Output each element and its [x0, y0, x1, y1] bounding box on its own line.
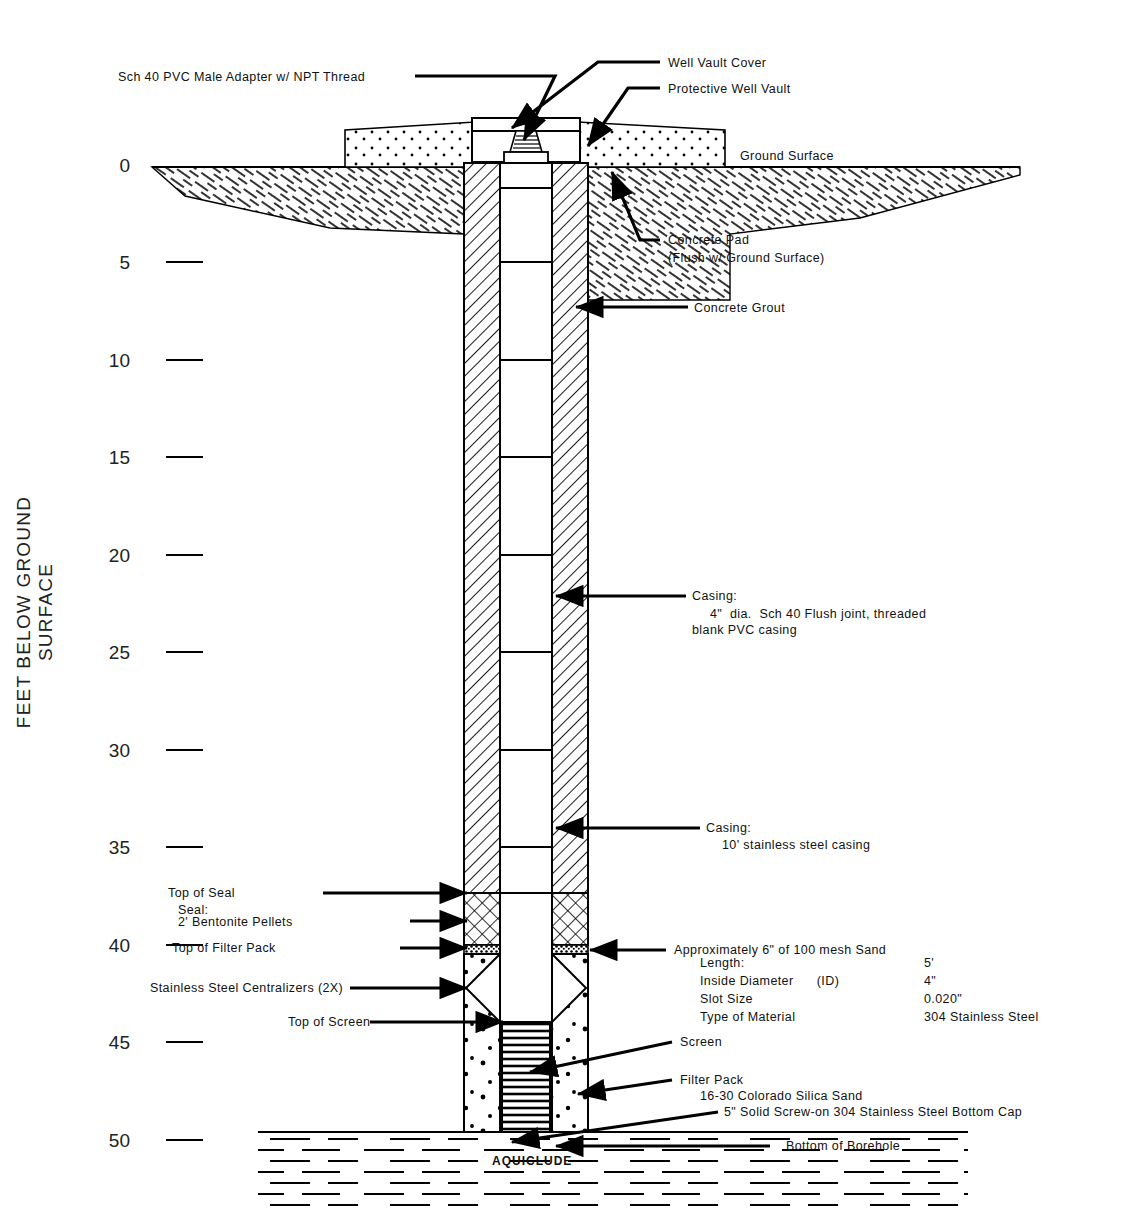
spec-value-inside-diameter: 4": [924, 973, 936, 989]
callout-filter-pack-spec: 16-30 Colorado Silica Sand: [700, 1088, 863, 1104]
callout-centralizers: Stainless Steel Centralizers (2X): [150, 980, 343, 996]
callout-casing-ss-line1: 10' stainless steel casing: [722, 837, 870, 853]
callout-bottom-cap: 5" Solid Screw-on 304 Stainless Steel Bo…: [724, 1104, 1022, 1120]
callout-casing-pvc-line1: 4" dia. Sch 40 Flush joint, threaded: [710, 606, 926, 622]
screen-spec-row: Length: 5': [700, 955, 1100, 971]
stainless-steel-screen: [500, 893, 552, 1148]
callout-adapter: Sch 40 PVC Male Adapter w/ NPT Thread: [118, 69, 365, 85]
screen-spec-row: Slot Size 0.020": [700, 991, 1100, 1007]
spec-name-slot-size: Slot Size: [700, 991, 924, 1007]
screen-spec-table: Length: 5' Inside Diameter (ID) 4" Slot …: [700, 955, 1100, 1025]
spec-value-type-of-material: 304 Stainless Steel: [924, 1009, 1039, 1025]
callout-ground-surface: Ground Surface: [740, 148, 834, 164]
callout-protective-vault: Protective Well Vault: [668, 81, 791, 97]
spec-value-slot-size: 0.020": [924, 991, 962, 1007]
well-schematic: [0, 0, 1121, 1228]
callout-casing-pvc-title: Casing:: [692, 588, 737, 604]
callout-casing-ss-title: Casing:: [706, 820, 751, 836]
callout-concrete-pad: Concrete Pad: [668, 232, 749, 248]
callout-top-of-screen: Top of Screen: [288, 1014, 370, 1030]
spec-value-length: 5': [924, 955, 934, 971]
callout-top-of-seal: Top of Seal: [168, 885, 235, 901]
callout-filter-pack-title: Filter Pack: [680, 1072, 743, 1088]
screen-spec-row: Inside Diameter (ID) 4": [700, 973, 1100, 989]
callout-top-of-filter-pack: Top of Filter Pack: [172, 940, 276, 956]
callout-vault-cover: Well Vault Cover: [668, 55, 766, 71]
well-construction-diagram: FEET BELOW GROUND SURFACE 0 5 10 15 20 2…: [0, 0, 1121, 1228]
callout-screen: Screen: [680, 1034, 722, 1050]
callout-concrete-pad-note: (Flush w/ Ground Surface): [668, 250, 825, 266]
axis-ticks: [166, 262, 203, 1140]
callout-seal-spec: 2' Bentonite Pellets: [178, 914, 293, 930]
spec-name-length: Length:: [700, 955, 924, 971]
callout-bottom-of-borehole: Bottom of Borehole: [786, 1138, 900, 1154]
spec-name-type-of-material: Type of Material: [700, 1009, 924, 1025]
callout-casing-pvc-line2: blank PVC casing: [692, 622, 797, 638]
pvc-blank-casing: [500, 163, 552, 893]
callout-concrete-grout: Concrete Grout: [694, 300, 785, 316]
aquiclude-label: AQUICLUDE: [492, 1154, 572, 1168]
screen-spec-row: Type of Material 304 Stainless Steel: [700, 1009, 1100, 1025]
spec-name-inside-diameter: Inside Diameter (ID): [700, 973, 924, 989]
